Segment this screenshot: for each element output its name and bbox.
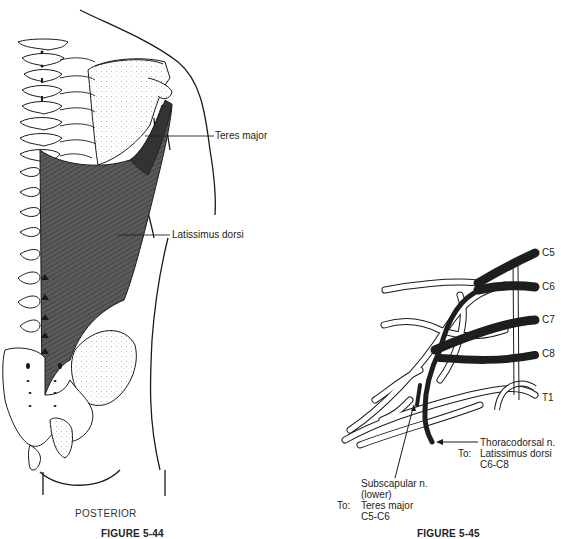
subscapular-lower-nerve xyxy=(417,385,420,405)
root-label-t1: T1 xyxy=(542,392,554,404)
label-latissimus-dorsi: Latissimus dorsi xyxy=(172,229,244,241)
root-label-c8: C8 xyxy=(542,348,555,360)
root-label-c7: C7 xyxy=(542,314,555,326)
subscapular-to: To: xyxy=(337,500,350,512)
c6-root xyxy=(478,286,535,290)
thoracodorsal-roots: C6-C8 xyxy=(480,459,509,471)
figure-5-45-caption: FIGURE 5-45 xyxy=(417,528,480,539)
c5-root xyxy=(478,253,535,283)
root-label-c5: C5 xyxy=(542,247,555,259)
view-label-posterior: POSTERIOR xyxy=(75,508,137,519)
figure-5-44-illustration xyxy=(0,0,561,539)
subscapular-roots: C5-C6 xyxy=(361,511,390,523)
c8-root xyxy=(440,355,535,360)
thoracodorsal-to: To: xyxy=(458,448,471,460)
figure-5-44-caption: FIGURE 5-44 xyxy=(101,528,164,539)
label-teres-major: Teres major xyxy=(215,130,267,142)
root-label-c6: C6 xyxy=(542,281,555,293)
